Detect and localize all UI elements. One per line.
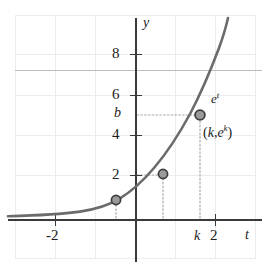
x-tick-label-minus2: -2	[46, 228, 59, 243]
exponential-function-graph: 8 6 4 2 b -2 k 2 y t et (k,ek)	[0, 0, 271, 270]
data-point-left	[111, 195, 120, 204]
x-tick-label-k: k	[194, 229, 200, 243]
y-tick-label-8: 8	[112, 46, 120, 61]
x-axis-label: t	[245, 228, 249, 242]
curve-label: et	[211, 91, 219, 105]
y-axis-label: y	[143, 16, 149, 30]
data-point-k	[195, 110, 205, 120]
curve-label-exponent: t	[217, 90, 220, 100]
y-tick-label-4: 4	[112, 127, 120, 142]
y-tick-label-b: b	[114, 106, 121, 120]
point-label-k-ek: (k,ek)	[203, 124, 232, 140]
point-label-paren-close: )	[228, 125, 233, 140]
data-point-middle	[158, 169, 167, 178]
guide-lines	[116, 115, 200, 218]
x-tick-label-2: 2	[210, 228, 218, 243]
y-tick-label-2: 2	[112, 167, 120, 182]
y-tick-label-6: 6	[112, 87, 120, 102]
data-point-markers	[111, 110, 205, 204]
